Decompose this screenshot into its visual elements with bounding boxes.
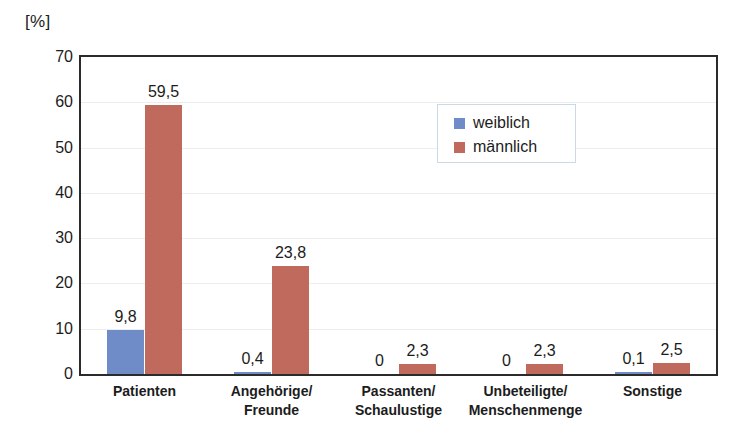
bar-female	[234, 372, 271, 374]
plot-area: 9,859,50,423,802,302,30,12,5	[79, 55, 718, 376]
x-axis-category-label-line: Patienten	[113, 382, 176, 401]
x-axis-category-label-line: Schaulustige	[355, 401, 442, 420]
bar-male	[399, 364, 436, 374]
gridline	[81, 102, 716, 103]
x-axis-category-label: Unbeteiligte/Menschenmenge	[469, 382, 583, 420]
bar-value-label: 2,3	[533, 342, 555, 360]
x-axis-category-labels: PatientenAngehörige/FreundePassanten/Sch…	[79, 382, 718, 442]
x-axis-category-label: Sonstige	[623, 382, 682, 401]
bar-value-label: 0	[502, 352, 511, 370]
bar-value-label: 0,1	[622, 350, 644, 368]
legend-swatch-icon	[454, 142, 465, 153]
bar-value-label: 2,5	[660, 341, 682, 359]
bar-male	[653, 363, 690, 374]
legend-item-label: männlich	[473, 138, 537, 156]
bar-female	[107, 330, 144, 374]
bar-value-label: 59,5	[148, 83, 179, 101]
y-axis-tick-label: 70	[27, 48, 73, 66]
bar-value-label: 9,8	[114, 308, 136, 326]
y-axis-tick-label: 60	[27, 93, 73, 111]
bar-value-label: 23,8	[275, 244, 306, 262]
bar-female	[615, 372, 652, 374]
y-axis-tick-label: 10	[27, 320, 73, 338]
x-axis-category-label-line: Unbeteiligte/	[469, 382, 583, 401]
x-axis-category-label-line: Menschenmenge	[469, 401, 583, 420]
x-axis-category-label-line: Angehörige/	[231, 382, 313, 401]
y-axis-tick-label: 40	[27, 184, 73, 202]
x-axis-category-label: Angehörige/Freunde	[231, 382, 313, 420]
bar-value-label: 0,4	[241, 350, 263, 368]
legend-item-label: weiblich	[473, 114, 530, 132]
y-axis-unit-label: [%]	[25, 12, 50, 32]
x-axis-category-label: Passanten/Schaulustige	[355, 382, 442, 420]
bar-male	[526, 364, 563, 374]
x-axis-category-label-line: Sonstige	[623, 382, 682, 401]
legend-item[interactable]: weiblich	[454, 114, 530, 132]
y-axis-labels: 706050403020100	[17, 55, 73, 376]
y-axis-tick-label: 0	[27, 365, 73, 383]
bar-chart: [%] 706050403020100 9,859,50,423,802,302…	[0, 0, 755, 448]
legend-item[interactable]: männlich	[454, 138, 537, 156]
bar-value-label: 0	[375, 352, 384, 370]
x-axis-category-label: Patienten	[113, 382, 176, 401]
y-axis-tick-label: 20	[27, 274, 73, 292]
y-axis-tick-label: 50	[27, 139, 73, 157]
x-axis-category-label-line: Freunde	[231, 401, 313, 420]
y-axis-tick-label: 30	[27, 229, 73, 247]
legend: weiblichmännlich	[437, 104, 576, 163]
plot-inner: 9,859,50,423,802,302,30,12,5	[81, 57, 716, 374]
legend-swatch-icon	[454, 118, 465, 129]
bar-value-label: 2,3	[406, 342, 428, 360]
bar-male	[272, 266, 309, 374]
bar-male	[145, 105, 182, 374]
x-axis-category-label-line: Passanten/	[355, 382, 442, 401]
